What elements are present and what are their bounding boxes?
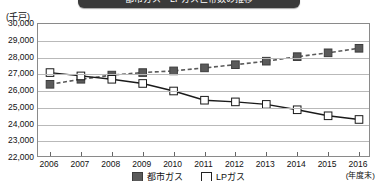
x-tick-label: 2012: [217, 159, 251, 169]
x-tick: [205, 152, 206, 156]
gridline: [38, 125, 369, 126]
x-tick-label: 2014: [279, 159, 313, 169]
chart-legend: 都市ガス LPガス: [0, 172, 377, 181]
y-tick-label: 23,000: [0, 135, 34, 145]
lp-gas-marker-icon: [201, 172, 212, 181]
gridline: [38, 91, 369, 92]
y-tick-label: 28,000: [0, 52, 34, 62]
y-tick-label: 29,000: [0, 35, 34, 45]
data-point-marker: [201, 64, 209, 72]
x-tick-label: 2006: [32, 159, 66, 169]
data-point-marker: [324, 112, 332, 120]
data-point-marker: [201, 96, 209, 104]
data-point-marker: [355, 44, 363, 52]
gridline: [38, 74, 369, 75]
plot-area: [37, 23, 370, 157]
x-tick: [81, 152, 82, 156]
data-point-marker: [263, 57, 271, 65]
x-tick-label: 2015: [310, 159, 344, 169]
data-point-marker: [232, 61, 240, 69]
x-tick-label: 2008: [94, 159, 128, 169]
x-tick-label: 2007: [63, 159, 97, 169]
legend-label-lp-gas: LPガス: [216, 173, 245, 181]
gridline: [38, 41, 369, 42]
data-point-marker: [355, 116, 363, 124]
legend-item-city-gas: 都市ガス: [132, 172, 183, 181]
y-tick-label: 24,000: [0, 119, 34, 129]
data-point-marker: [46, 81, 54, 89]
y-tick-label: 25,000: [0, 102, 34, 112]
x-tick: [266, 152, 267, 156]
x-tick-label: 2013: [248, 159, 282, 169]
x-tick: [143, 152, 144, 156]
data-point-marker: [232, 98, 240, 106]
data-point-marker: [77, 72, 85, 80]
x-tick: [50, 152, 51, 156]
gridline: [38, 58, 369, 59]
data-point-marker: [108, 75, 116, 83]
x-tick-label: 2010: [156, 159, 190, 169]
chart-title-bar: 都市ガス・LPガス世帯数の推移: [78, 0, 300, 8]
y-tick-label: 22,000: [0, 152, 34, 162]
legend-item-lp-gas: LPガス: [201, 172, 245, 181]
x-tick: [359, 152, 360, 156]
x-tick-label: 2011: [187, 159, 221, 169]
x-tick: [112, 152, 113, 156]
y-tick-label: 30,000: [0, 18, 34, 28]
x-tick-label: 2016: [341, 159, 375, 169]
legend-label-city-gas: 都市ガス: [147, 173, 183, 181]
y-tick-label: 27,000: [0, 68, 34, 78]
x-tick-label: 2009: [125, 159, 159, 169]
chart-page: 都市ガス・LPガス世帯数の推移 (千戸) 30,00029,00028,0002…: [0, 0, 377, 181]
gridline: [38, 108, 369, 109]
city-gas-marker-icon: [132, 172, 143, 181]
data-point-marker: [324, 49, 332, 57]
page-title: 都市ガス・LPガス世帯数の推移: [78, 0, 300, 8]
y-tick-label: 26,000: [0, 85, 34, 95]
x-tick: [235, 152, 236, 156]
gridline: [38, 141, 369, 142]
x-tick: [297, 152, 298, 156]
x-tick: [174, 152, 175, 156]
x-tick: [328, 152, 329, 156]
data-point-marker: [139, 80, 147, 88]
